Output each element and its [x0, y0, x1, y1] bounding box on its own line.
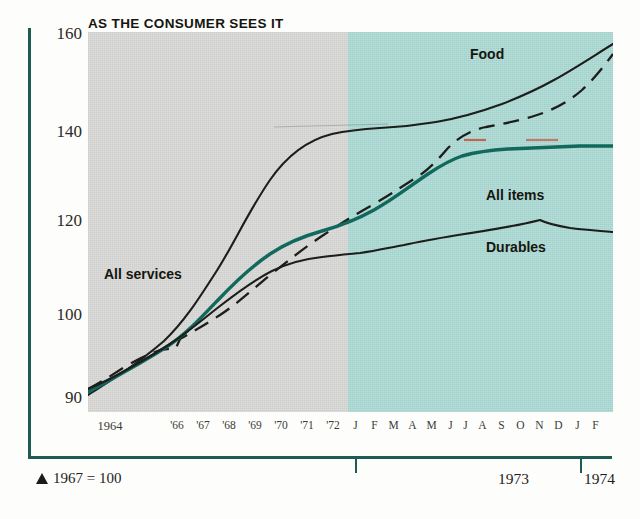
x-tick-67: '67 [192, 419, 214, 431]
x-axis-line [28, 456, 612, 459]
y-tick-160: 160 [34, 24, 82, 44]
x-tick-month-8: A [475, 419, 490, 431]
x-tick-69: '69 [244, 419, 266, 431]
x-tick-72: '72 [322, 419, 344, 431]
x-tick-1964: 1964 [88, 419, 132, 434]
x-tick-month-12: D [551, 419, 566, 431]
x-tick-71: '71 [296, 419, 318, 431]
x-tick-month-3: M [386, 419, 401, 431]
footer-year-1974: 1974 [584, 470, 615, 488]
x-tick-68: '68 [218, 419, 240, 431]
triangle-icon [36, 473, 48, 484]
x-tick-month-9: S [494, 419, 509, 431]
chart-root: AS THE CONSUMER SEES IT 160 140 120 100 … [0, 0, 640, 519]
x-tick-70: '70 [270, 419, 292, 431]
series-label-all-services: All services [104, 266, 182, 282]
base-note-text: 1967 = 100 [53, 470, 121, 486]
x-tick-66: '66 [166, 419, 188, 431]
y-tick-140: 140 [34, 122, 82, 142]
y-axis-labels: 160 140 120 100 90 [30, 0, 82, 519]
x-tick-month-10: O [513, 419, 528, 431]
page-title: AS THE CONSUMER SEES IT [88, 16, 284, 31]
x-tick-month-7: J [458, 419, 473, 431]
x-tick-month-14: F [588, 419, 603, 431]
x-tick-month-5: M [424, 419, 439, 431]
plot-area: All services Food All items Durables [88, 32, 613, 412]
x-tick-month-11: N [532, 419, 547, 431]
x-tick-month-6: J [443, 419, 458, 431]
series-label-all-items: All items [486, 187, 544, 203]
series-label-food: Food [470, 46, 504, 62]
year-tick-1974 [580, 459, 582, 473]
series-lines [88, 32, 613, 412]
year-tick-1973 [355, 459, 357, 473]
x-tick-month-13: J [570, 419, 585, 431]
y-tick-90: 90 [34, 388, 82, 408]
x-tick-month-4: A [405, 419, 420, 431]
footer-year-1973: 1973 [498, 470, 529, 488]
y-tick-100: 100 [34, 305, 82, 325]
base-note: 1967 = 100 [36, 470, 121, 487]
x-tick-month-2: F [367, 419, 382, 431]
x-tick-month-1: J [348, 419, 363, 431]
series-label-durables: Durables [486, 239, 546, 255]
y-tick-120: 120 [34, 211, 82, 231]
